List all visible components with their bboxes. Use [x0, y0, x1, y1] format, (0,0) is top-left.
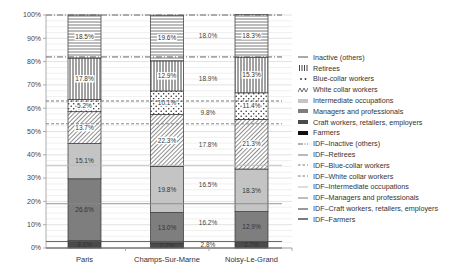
- legend-item: IDF–Managers and professionals: [298, 192, 453, 203]
- legend-label: White collar workers: [313, 85, 378, 94]
- legend-swatch-icon: [298, 53, 308, 61]
- legend-label: IDF–Craft workers, retailers, employers: [313, 204, 438, 213]
- legend-item: White collar workers: [298, 84, 453, 95]
- legend-item: IDF–Craft workers, retailers, employers: [298, 203, 453, 214]
- y-tick-label: 0%: [31, 244, 41, 251]
- segment-value-label: 15.1%: [75, 157, 94, 164]
- legend-swatch-icon: [298, 194, 308, 202]
- segment-value-label: 22.3%: [158, 137, 177, 144]
- legend-swatch-icon: [298, 161, 308, 169]
- legend-label: IDF–Farmers: [313, 215, 355, 224]
- legend-swatch-icon: [298, 129, 308, 137]
- y-tick-label: 90%: [27, 35, 41, 42]
- legend-swatch-icon: [298, 215, 308, 223]
- segment-value-label: 19.6%: [158, 34, 177, 41]
- legend-item: IDF–Farmers: [298, 214, 453, 225]
- legend-swatch-icon: [298, 64, 308, 72]
- segment-value-label: 18.5%: [75, 33, 94, 40]
- legend-item: IDF–White collar workers: [298, 171, 453, 182]
- segment-value-label: 5.2%: [77, 102, 92, 109]
- segment-value-label: 13.0%: [158, 224, 177, 231]
- legend: Inactive (others)RetireesBlue-collar wor…: [298, 52, 453, 225]
- bar-stack: 2.7%12.9%18.3%21.3%11.4%15.3%18.3%: [235, 15, 268, 249]
- y-tick-label: 10%: [27, 221, 41, 228]
- bar-stack: 3.1%26.6%15.1%13.7%5.2%17.8%18.5%: [68, 15, 101, 248]
- legend-swatch-icon: [298, 97, 308, 105]
- legend-label: IDF–Intermediate occupations: [313, 182, 409, 191]
- legend-label: Retirees: [313, 64, 340, 73]
- legend-label: Inactive (others): [313, 53, 365, 62]
- legend-label: Blue-collar workers: [313, 74, 374, 83]
- legend-swatch-icon: [298, 86, 308, 94]
- y-tick-label: 100%: [23, 11, 41, 18]
- y-tick-label: 40%: [27, 151, 41, 158]
- segment-value-label: 18.3%: [242, 32, 261, 39]
- segment-value-label: 15.3%: [242, 71, 261, 78]
- y-axis: 0%10%20%30%40%50%60%70%80%90%100%: [23, 11, 46, 251]
- legend-item: Craft workers, retailers, employers: [298, 117, 453, 128]
- x-axis: ParisChamps-Sur-MarneNoisy-Le-Grand: [46, 248, 292, 264]
- legend-swatch-icon: [298, 118, 308, 126]
- segment-value-label: 17.8%: [75, 75, 94, 82]
- segment-value-label: 12.9%: [242, 223, 261, 230]
- segment-value-label: 13.7%: [75, 124, 94, 131]
- legend-label: Managers and professionals: [313, 107, 403, 116]
- legend-label: Craft workers, retailers, employers: [313, 118, 422, 127]
- idf-value-label: 2.8%: [201, 241, 216, 248]
- legend-swatch-icon: [298, 151, 308, 159]
- legend-label: IDF–White collar workers: [313, 172, 393, 181]
- idf-value-label: 18.0%: [199, 32, 218, 39]
- idf-value-label: 18.9%: [199, 75, 218, 82]
- idf-value-label: 16.2%: [199, 219, 218, 226]
- legend-swatch-icon: [298, 172, 308, 180]
- legend-item: IDF–Blue-collar workers: [298, 160, 453, 171]
- x-category-label: Paris: [76, 255, 93, 264]
- y-tick-label: 30%: [27, 174, 41, 181]
- y-tick-label: 50%: [27, 128, 41, 135]
- y-tick-label: 20%: [27, 198, 41, 205]
- segment-value-label: 10.1%: [158, 99, 177, 106]
- legend-label: Farmers: [313, 128, 340, 137]
- legend-item: Inactive (others): [298, 52, 453, 63]
- legend-item: IDF–Inactive (others): [298, 138, 453, 149]
- legend-label: IDF–Inactive (others): [313, 139, 380, 148]
- legend-item: Blue-collar workers: [298, 74, 453, 85]
- segment-value-label: 2.7%: [244, 241, 259, 248]
- legend-item: IDF–Intermediate occupations: [298, 182, 453, 193]
- legend-item: Managers and professionals: [298, 106, 453, 117]
- legend-swatch-icon: [298, 75, 308, 83]
- legend-swatch-icon: [298, 205, 308, 213]
- y-tick-label: 60%: [27, 105, 41, 112]
- legend-swatch-icon: [298, 107, 308, 115]
- segment-value-label: 19.8%: [158, 186, 177, 193]
- idf-value-label: 17.8%: [199, 141, 218, 148]
- legend-item: Intermediate occupations: [298, 95, 453, 106]
- legend-label: Intermediate occupations: [313, 96, 393, 105]
- x-category-label: Noisy-Le-Grand: [225, 255, 278, 264]
- legend-swatch-icon: [298, 183, 308, 191]
- legend-label: IDF–Retirees: [313, 150, 355, 159]
- bars: 3.1%26.6%15.1%13.7%5.2%17.8%18.5%2.2%13.…: [68, 15, 268, 250]
- segment-value-label: 12.9%: [158, 72, 177, 79]
- legend-label: IDF–Managers and professionals: [313, 193, 419, 202]
- segment-value-label: 26.6%: [75, 206, 94, 213]
- y-tick-label: 80%: [27, 58, 41, 65]
- y-tick-label: 70%: [27, 81, 41, 88]
- x-category-label: Champs-Sur-Marne: [134, 255, 200, 264]
- legend-item: Retirees: [298, 63, 453, 74]
- bar-stack: 2.2%13.0%19.8%22.3%10.1%12.9%19.6%: [151, 15, 184, 249]
- segment-value-label: 11.4%: [243, 102, 261, 109]
- segment-value-label: 21.3%: [242, 140, 261, 147]
- legend-label: IDF–Blue-collar workers: [313, 161, 390, 170]
- legend-item: Farmers: [298, 128, 453, 139]
- legend-item: IDF–Retirees: [298, 149, 453, 160]
- legend-swatch-icon: [298, 140, 308, 148]
- segment-value-label: 18.3%: [242, 187, 261, 194]
- idf-value-label: 16.5%: [199, 181, 218, 188]
- idf-value-label: 9.8%: [201, 109, 216, 116]
